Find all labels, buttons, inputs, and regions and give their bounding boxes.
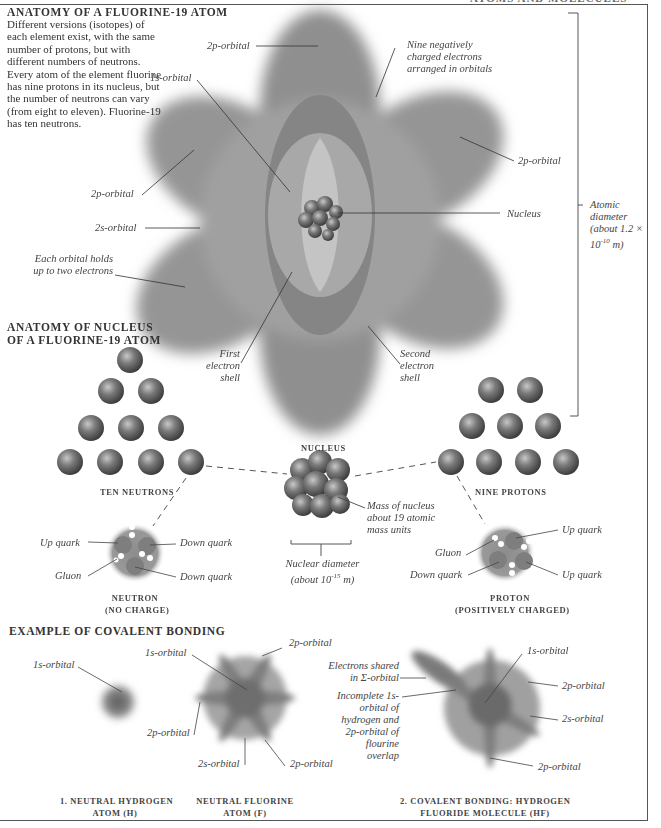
proton-label-up-quark-1: Up quark <box>562 524 602 536</box>
molecule-label-2p-bottom: 2p-orbital <box>538 761 581 773</box>
neutron-caption-line2: (NO CHARGE) <box>105 604 165 616</box>
fluorine-label-2p-left: 2p-orbital <box>147 727 190 739</box>
nuclear-diameter-exponent: -15 <box>331 572 340 580</box>
label-1s-orbital: 1s-orbital <box>150 72 191 84</box>
molecule-label-2s: 2s-orbital <box>562 713 603 725</box>
fluorine-caption-line1: NEUTRAL FLUORINE <box>195 795 295 807</box>
nine-protons-caption: NINE PROTONS <box>475 486 547 498</box>
label-right-2p-orbital: 2p-orbital <box>518 155 561 167</box>
bonding-section-title: EXAMPLE OF COVALENT BONDING <box>9 625 225 638</box>
molecule-label-incomplete: Incomplete 1s-orbital of hydrogen and 2p… <box>333 690 399 762</box>
hydrogen-caption-line2: ATOM (H) <box>60 807 170 819</box>
proton-label-up-quark-2: Up quark <box>562 569 602 581</box>
hydrogen-label-1s: 1s-orbital <box>33 659 74 671</box>
label-first-shell: First electron shell <box>198 348 240 384</box>
label-top-2p-orbital: 2p-orbital <box>207 40 250 52</box>
neutron-label-down-quark-1: Down quark <box>180 537 232 549</box>
fluorine-caption: NEUTRAL FLUORINE ATOM (F) <box>195 795 295 819</box>
nucleus-section-title: ANATOMY OF NUCLEUS OF A FLUORINE-19 ATOM <box>7 321 161 347</box>
hydrogen-caption: 1. NEUTRAL HYDROGEN ATOM (H) <box>60 795 170 819</box>
label-atomic-diameter: Atomic diameter (about 1.2 × 10-10 m) <box>590 199 650 251</box>
neutron-particle <box>105 523 165 583</box>
nucleus-cluster <box>284 450 350 518</box>
molecule-caption: 2. COVALENT BONDING: HYDROGEN FLUORIDE M… <box>400 795 570 819</box>
neutron-caption-line1: NEUTRON <box>105 592 165 604</box>
nuclear-diameter-value-row: (about 10-15 m) <box>280 570 365 586</box>
molecule-label-1s: 1s-orbital <box>527 645 568 657</box>
proton-spheres <box>438 377 579 475</box>
label-nine-electrons: Nine negatively charged electrons arrang… <box>407 39 507 75</box>
nucleus-title-line2: OF A FLUORINE-19 ATOM <box>7 334 161 347</box>
neutron-label-down-quark-2: Down quark <box>180 571 232 583</box>
nucleus-title-line1: ANATOMY OF NUCLEUS <box>7 321 161 334</box>
fluorine-label-2p-bottom: 2p-orbital <box>290 758 333 770</box>
proton-caption-line1: PROTON <box>455 592 565 604</box>
atomic-diameter-unit: m) <box>610 239 624 250</box>
nuclear-diameter-value: (about 10 <box>291 574 332 585</box>
fluorine-label-1s: 1s-orbital <box>145 647 186 659</box>
label-nucleus: Nucleus <box>507 208 541 220</box>
hydrogen-1s-orbital <box>96 680 140 724</box>
neutron-label-gluon: Gluon <box>55 570 81 582</box>
fluorine-label-2s: 2s-orbital <box>198 758 239 770</box>
nucleus-caption: NUCLEUS <box>301 442 346 454</box>
proton-particle <box>475 523 535 583</box>
neutron-label-up-quark: Up quark <box>40 537 80 549</box>
molecule-label-2p-top: 2p-orbital <box>562 680 605 692</box>
atomic-diameter-bracket <box>568 13 583 416</box>
label-2s-orbital: 2s-orbital <box>95 222 136 234</box>
proton-caption-line2: (POSITIVELY CHARGED) <box>455 604 565 616</box>
label-second-shell: Second electron shell <box>400 348 442 384</box>
ten-neutrons-caption: TEN NEUTRONS <box>100 486 174 498</box>
label-left-2p-orbital: 2p-orbital <box>91 188 134 200</box>
molecule-caption-line2: FLUORIDE MOLECULE (HF) <box>400 807 570 819</box>
hydrogen-caption-line1: 1. NEUTRAL HYDROGEN <box>60 795 170 807</box>
label-nuclear-diameter: Nuclear diameter (about 10-15 m) <box>280 558 365 586</box>
molecule-caption-line1: 2. COVALENT BONDING: HYDROGEN <box>400 795 570 807</box>
proton-label-down-quark: Down quark <box>410 569 462 581</box>
fluorine-small-atom <box>195 651 295 746</box>
hf-molecule <box>406 644 543 768</box>
proton-label-gluon: Gluon <box>435 547 461 559</box>
nuclear-diameter-unit: m) <box>341 574 355 585</box>
proton-caption: PROTON (POSITIVELY CHARGED) <box>455 592 565 616</box>
neutron-caption: NEUTRON (NO CHARGE) <box>105 592 165 616</box>
atom-intro-text: Different versions (isotopes) of each el… <box>7 18 167 130</box>
label-nucleus-mass: Mass of nucleus about 19 atomic mass uni… <box>367 500 442 536</box>
neutron-spheres <box>57 347 204 475</box>
nuclear-diameter-text: Nuclear diameter <box>280 558 365 570</box>
atomic-diameter-exponent: -10 <box>601 237 610 245</box>
fluorine-caption-line2: ATOM (F) <box>195 807 295 819</box>
label-each-orbital: Each orbital holds up to two electrons <box>25 253 113 277</box>
fluorine-label-2p-top: 2p-orbital <box>289 637 332 649</box>
molecule-label-shared: Electrons shared in Σ-orbital <box>325 660 399 684</box>
